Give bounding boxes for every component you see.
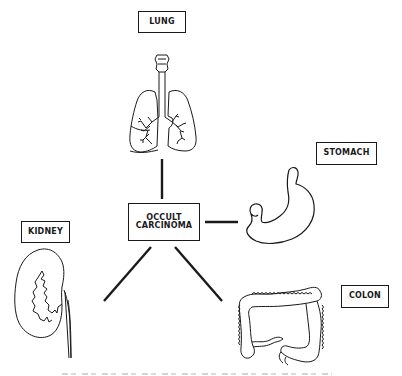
node-lung-label: LUNG <box>138 11 186 33</box>
colon-illustration-icon <box>0 0 402 376</box>
node-kidney-label: KIDNEY <box>21 221 70 243</box>
center-node-occult-carcinoma: OCCULT CARCINOMA <box>128 203 200 241</box>
diagram-canvas: LUNG STOMACH OCCULT CARCINOMA KIDNEY COL… <box>0 0 402 376</box>
colon-label-text: COLON <box>349 292 381 300</box>
kidney-label-text: KIDNEY <box>28 228 63 236</box>
center-node-line2: CARCINOMA <box>136 222 193 230</box>
node-colon-label: COLON <box>341 285 389 308</box>
stomach-label-text: STOMACH <box>323 149 369 157</box>
node-stomach-label: STOMACH <box>316 142 377 165</box>
cropped-figure-caption <box>62 371 332 376</box>
lung-label-text: LUNG <box>149 18 174 26</box>
caption-ghost-text <box>62 373 332 375</box>
